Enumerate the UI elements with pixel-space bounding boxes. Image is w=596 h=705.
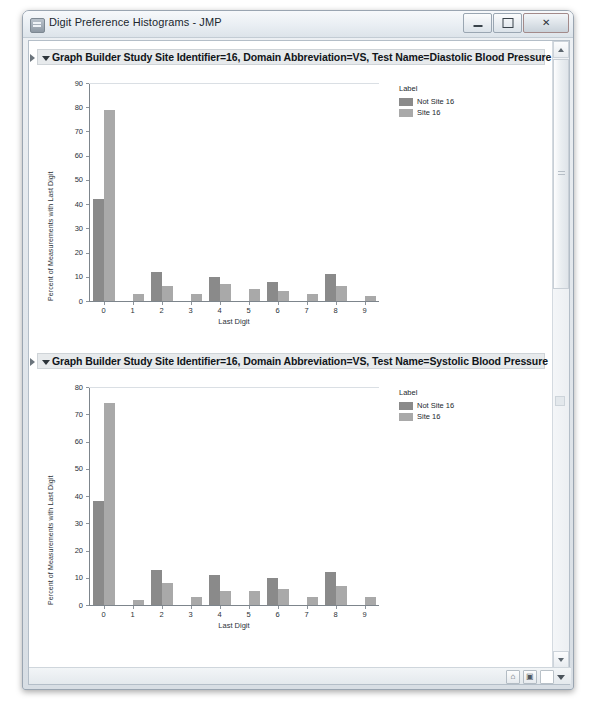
bar-not-site-16[interactable] [209, 575, 220, 605]
x-axis-tick-mark [365, 302, 366, 305]
y-axis-tick-label: 80 [61, 383, 83, 392]
legend-swatch-icon [399, 413, 413, 421]
bar-site-16[interactable] [104, 110, 115, 301]
close-icon: ✕ [542, 18, 550, 28]
legend-item[interactable]: Not Site 16 [399, 97, 454, 106]
bar-site-16[interactable] [278, 291, 289, 301]
x-axis-title: Last Digit [89, 621, 379, 630]
y-axis-tick-label: 30 [61, 224, 83, 233]
x-axis-tick-mark [162, 606, 163, 609]
x-axis-tick-label: 4 [213, 610, 227, 619]
x-axis-tick-label: 7 [300, 610, 314, 619]
x-axis-tick-mark [104, 302, 105, 305]
bar-site-16[interactable] [278, 589, 289, 605]
legend-label: Not Site 16 [417, 401, 454, 410]
blank-icon[interactable] [540, 670, 554, 684]
outline-header[interactable]: Graph Builder Study Site Identifier=16, … [37, 353, 545, 369]
title-bar[interactable]: Digit Preference Histograms - JMP ✕ [23, 11, 573, 38]
bar-site-16[interactable] [249, 591, 260, 605]
outline-disclosure-icon[interactable] [42, 360, 50, 365]
x-axis-tick-label: 8 [329, 306, 343, 315]
outline-collapse-triangle-icon[interactable] [30, 54, 35, 62]
x-axis-tick-label: 8 [329, 610, 343, 619]
x-axis-tick-mark [249, 606, 250, 609]
home-icon[interactable]: ⌂ [506, 670, 520, 684]
bar-site-16[interactable] [220, 284, 231, 301]
legend-label: Site 16 [417, 108, 440, 117]
legend-item[interactable]: Site 16 [399, 412, 454, 421]
bar-site-16[interactable] [133, 294, 144, 301]
outline-collapse-triangle-icon[interactable] [30, 358, 35, 366]
report-section: Graph Builder Study Site Identifier=16, … [29, 49, 553, 65]
y-axis-tick-label: 10 [61, 573, 83, 582]
bar-site-16[interactable] [365, 296, 376, 301]
scroll-down-arrow[interactable] [553, 651, 569, 668]
y-axis-tick-label: 60 [61, 151, 83, 160]
status-bar: ⌂ ▣ [29, 667, 571, 684]
close-button[interactable]: ✕ [523, 13, 569, 33]
plot-top-border [89, 83, 379, 84]
legend-swatch-icon [399, 98, 413, 106]
bar-site-16[interactable] [162, 286, 173, 301]
bar-site-16[interactable] [336, 586, 347, 605]
scrollbar-thumb[interactable] [553, 59, 569, 289]
bar-site-16[interactable] [336, 286, 347, 301]
bar-site-16[interactable] [220, 591, 231, 605]
bar-site-16[interactable] [307, 597, 318, 605]
bar-not-site-16[interactable] [267, 578, 278, 605]
x-axis-tick-mark [278, 606, 279, 609]
report-section: Graph Builder Study Site Identifier=16, … [29, 353, 553, 369]
legend-title: Label [399, 84, 454, 93]
x-axis-tick-mark [133, 606, 134, 609]
caret-down-icon[interactable] [557, 675, 565, 680]
outline-header[interactable]: Graph Builder Study Site Identifier=16, … [37, 49, 545, 65]
outline-title: Graph Builder Study Site Identifier=16, … [52, 355, 548, 367]
x-axis-tick-label: 5 [242, 610, 256, 619]
y-axis-tick-label: 20 [61, 248, 83, 257]
bar-not-site-16[interactable] [151, 272, 162, 301]
minimize-button[interactable] [463, 13, 492, 33]
maximize-button[interactable] [493, 13, 522, 33]
legend-item[interactable]: Site 16 [399, 108, 454, 117]
x-axis-tick-mark [307, 606, 308, 609]
bar-not-site-16[interactable] [325, 274, 336, 301]
y-axis-tick-label: 30 [61, 519, 83, 528]
x-axis-tick-label: 6 [271, 306, 285, 315]
bar-not-site-16[interactable] [267, 282, 278, 301]
bar-site-16[interactable] [162, 583, 173, 605]
bar-not-site-16[interactable] [93, 199, 104, 301]
x-axis-tick-label: 0 [97, 610, 111, 619]
bar-site-16[interactable] [133, 600, 144, 605]
y-axis-tick-label: 0 [61, 601, 83, 610]
bar-site-16[interactable] [307, 294, 318, 301]
y-axis-title: Percent of Measurements with Last Digit [47, 171, 54, 301]
chart-plot[interactable]: Percent of Measurements with Last Digit0… [29, 375, 553, 645]
bar-not-site-16[interactable] [209, 277, 220, 301]
bar-site-16[interactable] [104, 403, 115, 605]
y-axis-tick-label: 0 [61, 297, 83, 306]
legend-label: Not Site 16 [417, 97, 454, 106]
vertical-scrollbar[interactable] [552, 41, 569, 668]
bar-site-16[interactable] [249, 289, 260, 301]
x-axis-tick-mark [191, 606, 192, 609]
y-axis-tick-label: 90 [61, 79, 83, 88]
outline-disclosure-icon[interactable] [42, 56, 50, 61]
x-axis-tick-mark [220, 302, 221, 305]
x-axis-title: Last Digit [89, 317, 379, 326]
window-icon[interactable]: ▣ [523, 670, 537, 684]
scroll-up-arrow[interactable] [553, 41, 569, 58]
legend-title: Label [399, 388, 454, 397]
bar-not-site-16[interactable] [325, 572, 336, 605]
legend-item[interactable]: Not Site 16 [399, 401, 454, 410]
bar-site-16[interactable] [191, 294, 202, 301]
x-axis-tick-label: 1 [126, 306, 140, 315]
bar-site-16[interactable] [191, 597, 202, 605]
chart-plot[interactable]: Percent of Measurements with Last Digit0… [29, 71, 553, 341]
bar-site-16[interactable] [365, 597, 376, 605]
bar-not-site-16[interactable] [93, 501, 104, 605]
y-axis-tick-label: 50 [61, 175, 83, 184]
x-axis-tick-mark [133, 302, 134, 305]
x-axis-tick-mark [104, 606, 105, 609]
bar-not-site-16[interactable] [151, 570, 162, 605]
y-axis-tick-label: 40 [61, 492, 83, 501]
